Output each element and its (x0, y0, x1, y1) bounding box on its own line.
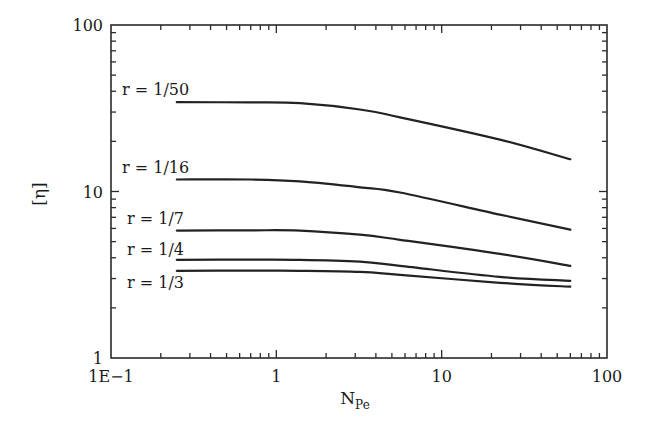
chart: r = 1/50r = 1/16r = 1/7r = 1/4r = 1/3 1E… (0, 0, 650, 436)
y-tick-label: 10 (83, 183, 103, 202)
x-axis-title-main: N (340, 388, 355, 408)
x-tick-label: 100 (592, 367, 623, 386)
series-label: r = 1/4 (127, 240, 184, 259)
series-label: r = 1/3 (127, 273, 184, 292)
y-axis-title: [η] (29, 182, 49, 205)
series-lines (177, 102, 571, 287)
x-tick-label: 1E−1 (88, 367, 133, 386)
x-axis-title-subscript: Pe (355, 398, 370, 412)
series-label: r = 1/50 (122, 80, 189, 99)
series-label: r = 1/16 (122, 158, 189, 177)
series-line-1 (177, 179, 571, 229)
x-tick-label: 10 (431, 367, 451, 386)
series-line-0 (177, 102, 571, 159)
y-tick-label: 1 (93, 349, 103, 368)
x-tick-labels: 1E−1110100 (88, 367, 622, 386)
y-tick-label: 100 (72, 16, 103, 35)
series-label: r = 1/7 (127, 209, 184, 228)
x-axis-title: NPe (340, 388, 370, 412)
y-tick-labels: 110100 (72, 16, 103, 368)
axis-ticks (111, 25, 607, 358)
plot-frame (111, 25, 607, 358)
x-tick-label: 1 (271, 367, 281, 386)
